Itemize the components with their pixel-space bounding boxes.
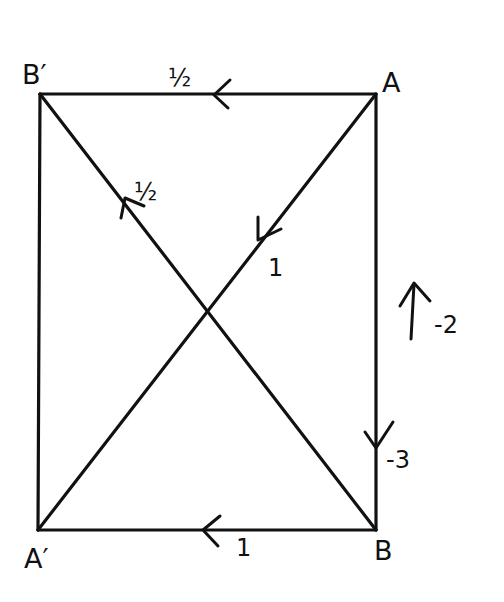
arrow-up-shaft: [411, 284, 414, 339]
weight-right-up: -2: [434, 311, 458, 339]
flow-diagram: B′ A A′ B ½ ½ 1 1 -2 -3: [0, 0, 504, 602]
weight-right-down: -3: [386, 446, 410, 474]
weight-diag-up: ½: [134, 178, 157, 206]
node-label-b-prime: B′: [22, 59, 47, 90]
node-label-b: B: [374, 535, 393, 566]
weight-top: ½: [168, 64, 191, 92]
node-label-a: A: [382, 67, 401, 98]
arrow-down-icon: [365, 422, 393, 448]
node-label-a-prime: A′: [24, 543, 49, 574]
weight-bottom: 1: [236, 534, 251, 562]
weight-diag-down: 1: [268, 254, 283, 282]
edge-bprime-aprime: [38, 94, 40, 530]
